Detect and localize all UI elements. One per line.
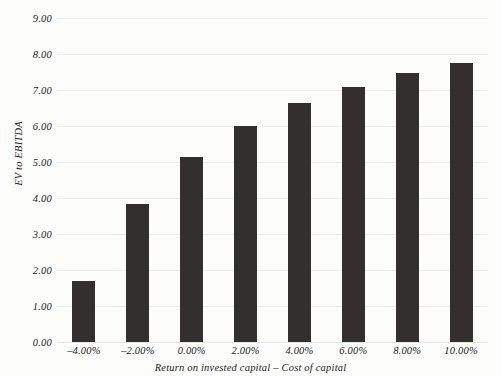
y-axis-tick-label: 5.00 [4,157,52,168]
y-axis-tick-label: 0.00 [4,337,52,348]
x-axis-tick-label: 8.00% [377,345,437,356]
x-axis-tick-label: 2.00% [216,345,276,356]
y-axis-tick-label: 9.00 [4,13,52,24]
y-axis-tick-label: 8.00 [4,49,52,60]
y-axis-tick-label: 2.00 [4,265,52,276]
plot-area [57,18,488,342]
bar [234,126,257,342]
x-axis-tick-label: 0.00% [162,345,222,356]
bar [126,204,149,342]
bar [396,73,419,342]
x-axis-title: Return on invested capital – Cost of cap… [0,362,501,373]
bar [450,63,473,342]
x-axis-tick-labels: –4.00%–2.00%0.00%2.00%4.00%6.00%8.00%10.… [57,345,488,361]
bar [342,87,365,342]
x-axis-tick-label: 10.00% [431,345,491,356]
x-axis-tick-label: –2.00% [108,345,168,356]
x-axis-tick-label: 6.00% [323,345,383,356]
bar [72,281,95,342]
x-axis-tick-label: 4.00% [269,345,329,356]
bar [288,103,311,342]
y-axis-tick-label: 1.00 [4,301,52,312]
y-axis-tick-label: 7.00 [4,85,52,96]
bar-chart: EV to EBITDA 0.001.002.003.004.005.006.0… [0,0,501,377]
y-axis-tick-labels: 0.001.002.003.004.005.006.007.008.009.00 [0,18,52,342]
y-axis-tick-label: 3.00 [4,229,52,240]
y-axis-tick-label: 4.00 [4,193,52,204]
y-axis-tick-label: 6.00 [4,121,52,132]
gridline [57,342,488,343]
bar [180,157,203,342]
x-axis-tick-label: –4.00% [54,345,114,356]
bars-layer [57,18,488,342]
